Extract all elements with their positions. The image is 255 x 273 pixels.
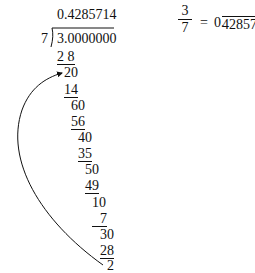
equals-sign: = <box>200 16 208 30</box>
repeating-digits: 428571 <box>222 16 255 31</box>
cycle-arrow-icon <box>0 0 255 273</box>
denominator: 7 <box>178 21 192 35</box>
fraction: 3 7 <box>178 4 192 35</box>
numerator: 3 <box>178 4 192 18</box>
